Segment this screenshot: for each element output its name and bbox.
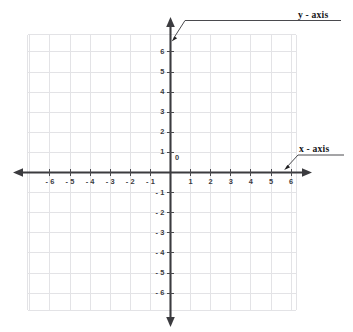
x-axis-callout-leader [284, 155, 344, 170]
x-axis-tick-label: - 5 [66, 177, 75, 186]
y-axis-tick-label: - 3 [156, 228, 165, 237]
x-axis-tick-label: - 1 [146, 177, 155, 186]
x-axis-tick-label: 5 [269, 177, 273, 186]
coordinate-plane-canvas: - 6- 5- 4- 3- 2- 1123456 - 6- 5- 4- 3- 2… [0, 0, 353, 332]
x-axis-right-arrowhead [302, 168, 312, 177]
x-axis-tick-label: - 4 [86, 177, 96, 186]
y-axis-tick-label: - 2 [156, 208, 165, 217]
origin-label: 0 [175, 153, 179, 162]
y-axis-tick-label: - 6 [156, 288, 165, 297]
y-axis-tick-label: 5 [160, 67, 164, 76]
x-axis-leader-line [287, 155, 345, 168]
x-axis-callout-label: x - axis [299, 143, 329, 154]
y-axis-top-arrowhead [166, 17, 175, 27]
y-axis-leader-line [174, 21, 342, 39]
y-axis-tick-label: 3 [160, 107, 164, 116]
y-axis-tick-label: - 4 [156, 248, 166, 257]
x-axis [13, 168, 312, 177]
x-axis-tick-label: 3 [229, 177, 233, 186]
x-axis-tick-labels: - 6- 5- 4- 3- 2- 1123456 [45, 177, 293, 186]
x-axis-tick-label: - 3 [106, 177, 115, 186]
x-axis-leader-arrowhead [284, 165, 290, 170]
y-axis-callout-label: y - axis [298, 9, 328, 20]
x-axis-tick-label: - 2 [126, 177, 135, 186]
y-axis-tick-label: - 1 [156, 188, 165, 197]
y-axis-tick-label: - 5 [156, 268, 165, 277]
y-axis-tick-label: 6 [160, 47, 164, 56]
x-axis-tick-label: 4 [249, 177, 254, 186]
coordinate-plane-figure: - 6- 5- 4- 3- 2- 1123456 - 6- 5- 4- 3- 2… [0, 0, 353, 332]
x-axis-tick-label: - 6 [45, 177, 54, 186]
x-axis-tick-label: 1 [188, 177, 192, 186]
x-axis-tick-label: 2 [209, 177, 213, 186]
y-axis-tick-label: 1 [160, 147, 164, 156]
x-axis-tick-label: 6 [289, 177, 293, 186]
y-axis-leader-arrowhead [172, 37, 178, 42]
y-axis-callout-leader [172, 21, 342, 42]
y-axis-tick-label: 2 [160, 127, 164, 136]
x-axis-left-arrowhead [13, 168, 23, 177]
y-axis-tick-label: 4 [160, 87, 165, 96]
y-axis-bottom-arrowhead [166, 317, 175, 327]
